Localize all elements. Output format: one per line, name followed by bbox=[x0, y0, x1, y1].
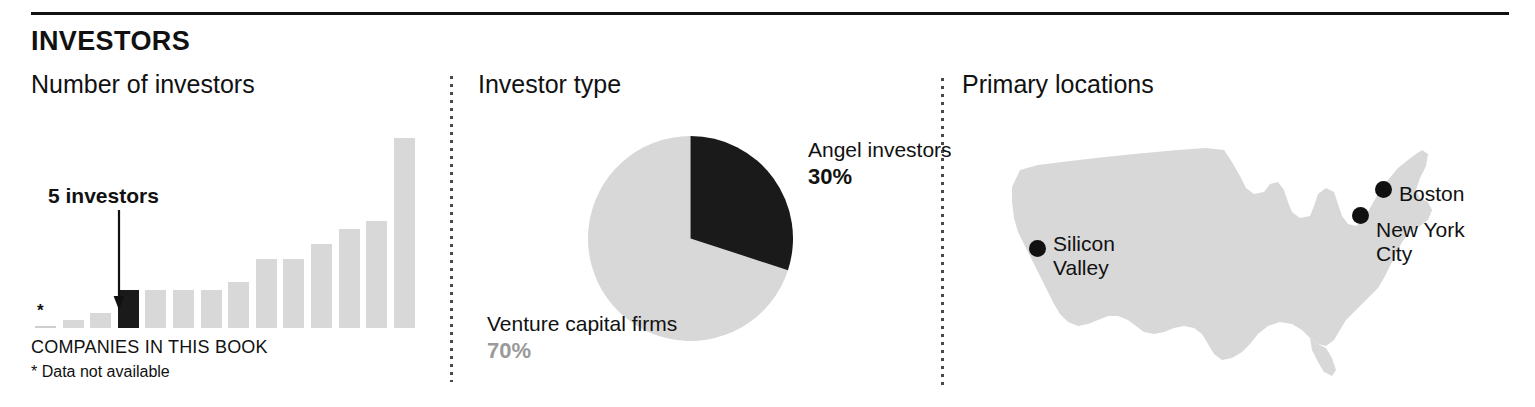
map-panel-title: Primary locations bbox=[962, 72, 1154, 97]
bar bbox=[90, 313, 111, 328]
map-label-sv-line1: Silicon bbox=[1053, 232, 1115, 255]
map-label-boston: Boston bbox=[1399, 182, 1464, 206]
map-marker-new-york-city[interactable] bbox=[1352, 207, 1369, 224]
bar bbox=[394, 138, 415, 328]
pie-panel-title: Investor type bbox=[478, 72, 621, 97]
pie-legend-vc-line1: Venture capital firms bbox=[487, 312, 677, 335]
no-data-asterisk: * bbox=[37, 302, 44, 319]
bar-axis-caption: COMPANIES IN THIS BOOK bbox=[31, 338, 268, 356]
callout-label: 5 investors bbox=[48, 185, 159, 206]
panel-divider-1 bbox=[450, 76, 453, 382]
section-kicker: INVESTORS bbox=[31, 28, 190, 55]
down-arrow-icon bbox=[112, 210, 126, 310]
bar bbox=[173, 290, 194, 328]
bar-panel-title: Number of investors bbox=[31, 72, 255, 97]
pie-legend-angel: Angel investors 30% bbox=[808, 138, 952, 189]
map-label-nyc-line1: New York bbox=[1376, 218, 1465, 241]
bar-chart bbox=[35, 130, 420, 328]
bar-no-data bbox=[35, 324, 56, 328]
bar bbox=[201, 290, 222, 328]
pie-legend-vc-value: 70% bbox=[487, 338, 677, 363]
top-rule bbox=[31, 12, 1509, 15]
bar bbox=[256, 259, 277, 328]
map-label-silicon-valley: Silicon Valley bbox=[1053, 232, 1115, 281]
bar bbox=[283, 259, 304, 328]
map-label-sv-line2: Valley bbox=[1053, 256, 1109, 279]
panel-divider-2 bbox=[941, 78, 944, 390]
bar bbox=[366, 221, 387, 328]
bar bbox=[311, 244, 332, 328]
pie-legend-venture-capital: Venture capital firms 70% bbox=[487, 312, 677, 363]
pie-chart bbox=[588, 136, 793, 341]
pie-svg bbox=[588, 136, 793, 341]
pie-legend-angel-line1: Angel investors bbox=[808, 138, 952, 161]
map-marker-boston[interactable] bbox=[1375, 181, 1392, 198]
map-marker-silicon-valley[interactable] bbox=[1029, 240, 1046, 257]
map-label-new-york-city: New York City bbox=[1376, 218, 1465, 267]
infographic-page: INVESTORS Number of investors * 5 invest… bbox=[0, 0, 1535, 407]
map-label-nyc-line2: City bbox=[1376, 242, 1412, 265]
pie-legend-angel-value: 30% bbox=[808, 164, 952, 189]
bar bbox=[339, 229, 360, 328]
bar bbox=[145, 290, 166, 328]
bar bbox=[63, 320, 84, 328]
bar bbox=[228, 282, 249, 328]
bar-footnote: * Data not available bbox=[31, 364, 170, 380]
map-label-boston-line1: Boston bbox=[1399, 182, 1464, 205]
